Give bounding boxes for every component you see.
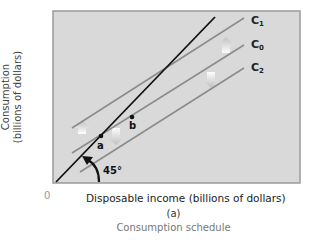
x-axis-label: Disposable income (billions of dollars) bbox=[86, 192, 286, 204]
point-a bbox=[99, 134, 104, 139]
angle-label: 45° bbox=[103, 165, 122, 176]
panel-label: (a) bbox=[0, 208, 317, 219]
y-axis-label-line1: Consumption bbox=[0, 51, 12, 143]
point-b bbox=[130, 115, 135, 120]
chart-subtitle: Consumption schedule bbox=[0, 222, 317, 233]
origin-label: 0 bbox=[44, 190, 50, 201]
point-a-label: a bbox=[97, 140, 104, 151]
y-axis-label-line2: (billions of dollars) bbox=[12, 51, 24, 143]
point-b-label: b bbox=[129, 120, 136, 131]
y-axis-label: Consumption (billions of dollars) bbox=[0, 51, 24, 143]
